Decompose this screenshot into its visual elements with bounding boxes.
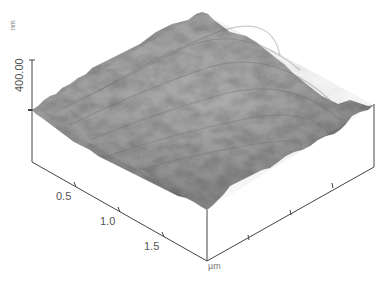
z-axis-tick-label: 400.00	[13, 58, 25, 92]
x-tick-label-1-5: 1.5	[144, 240, 159, 252]
afm-surface-plot	[0, 0, 392, 282]
x-axis-unit: µm	[208, 261, 221, 271]
x-tick-label-0-5: 0.5	[56, 190, 71, 202]
z-axis-unit: nm	[9, 20, 16, 30]
x-tick-label-1-0: 1.0	[100, 215, 115, 227]
